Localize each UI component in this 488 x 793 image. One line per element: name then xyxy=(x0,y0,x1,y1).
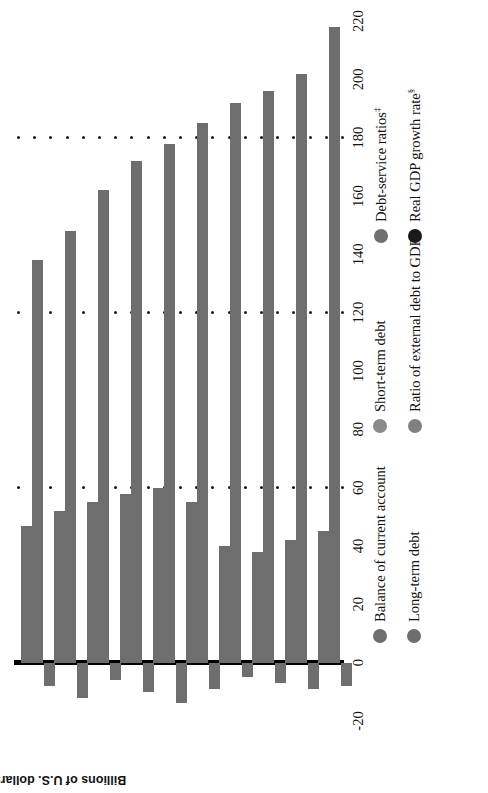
legend-footnote-marker: ‡ xyxy=(372,108,382,113)
value-tick-label: 20 xyxy=(350,581,367,627)
value-tick-label: 160 xyxy=(350,173,367,219)
legend-label: Long-term debt xyxy=(406,531,423,622)
bar-short-term-debt xyxy=(153,488,164,663)
bar-long-term-debt xyxy=(197,123,208,663)
bar-group xyxy=(311,21,344,721)
legend-item[interactable]: Long-term debt xyxy=(406,531,423,643)
bar-group xyxy=(278,21,311,721)
legend-label: Debt-service ratios‡ xyxy=(372,108,390,222)
bar-long-term-debt xyxy=(329,27,340,663)
bar-group xyxy=(80,21,113,721)
bar-short-term-debt xyxy=(252,552,263,663)
legend-swatch-icon xyxy=(408,229,422,243)
bar-long-term-debt xyxy=(65,231,76,663)
legend-swatch-icon xyxy=(407,629,421,643)
bar-short-term-debt xyxy=(120,494,131,663)
bar-group xyxy=(179,21,212,721)
legend-label: Real GDP growth rate§ xyxy=(406,89,424,222)
bar-short-term-debt xyxy=(285,540,296,663)
value-tick-label: 200 xyxy=(350,56,367,102)
value-tick-label: 100 xyxy=(350,348,367,394)
legend-footnote-marker: § xyxy=(406,89,416,94)
bar-short-term-debt xyxy=(54,511,65,663)
legend-swatch-icon xyxy=(373,629,387,643)
bar-long-term-debt xyxy=(230,103,241,663)
bar-long-term-debt xyxy=(296,74,307,663)
bar-group xyxy=(212,21,245,721)
value-tick-label: 60 xyxy=(350,465,367,511)
legend-swatch-icon xyxy=(408,419,422,433)
value-tick-label: 80 xyxy=(350,406,367,452)
legend-item[interactable]: Real GDP growth rate§ xyxy=(406,89,424,243)
value-tick-label: 0 xyxy=(350,640,367,686)
legend-swatch-icon xyxy=(373,419,387,433)
bar-group xyxy=(113,21,146,721)
bar-group xyxy=(245,21,278,721)
bar-group xyxy=(14,21,47,721)
bar-long-term-debt xyxy=(32,260,43,663)
bar-short-term-debt xyxy=(219,546,230,663)
plot-area xyxy=(14,21,344,721)
bar-short-term-debt xyxy=(186,502,197,662)
legend-item[interactable]: Short-term debt xyxy=(372,321,389,433)
value-tick-label: -20 xyxy=(350,698,367,744)
chart-stage: Billions of U.S. dollars -20020406080100… xyxy=(0,0,488,793)
bar-long-term-debt xyxy=(131,161,142,663)
bar-long-term-debt xyxy=(263,91,274,663)
bar-chart: Billions of U.S. dollars -20020406080100… xyxy=(0,0,488,793)
value-tick-label: 180 xyxy=(350,115,367,161)
bar-long-term-debt xyxy=(98,190,109,663)
value-tick-label: 220 xyxy=(350,0,367,44)
chart-legend: Balance of current accountLong-term debt… xyxy=(372,23,472,643)
value-tick-label: 120 xyxy=(350,290,367,336)
bar-short-term-debt xyxy=(21,526,32,663)
bar-group xyxy=(47,21,80,721)
value-tick-label: 140 xyxy=(350,231,367,277)
legend-item[interactable]: Ratio of external debt to GDP† xyxy=(406,234,424,433)
bar-short-term-debt xyxy=(87,502,98,662)
bar-group xyxy=(146,21,179,721)
legend-label: Balance of current account xyxy=(372,466,389,622)
legend-label: Short-term debt xyxy=(372,321,389,412)
bar-long-term-debt xyxy=(164,144,175,663)
bar-balance-current-account xyxy=(341,663,352,686)
legend-item[interactable]: Balance of current account xyxy=(372,466,389,643)
bar-short-term-debt xyxy=(318,531,329,662)
legend-item[interactable]: Debt-service ratios‡ xyxy=(372,108,390,243)
value-tick-label: 40 xyxy=(350,523,367,569)
legend-label: Ratio of external debt to GDP† xyxy=(406,234,424,412)
value-axis-title: Billions of U.S. dollars xyxy=(0,773,170,787)
legend-swatch-icon xyxy=(374,229,388,243)
